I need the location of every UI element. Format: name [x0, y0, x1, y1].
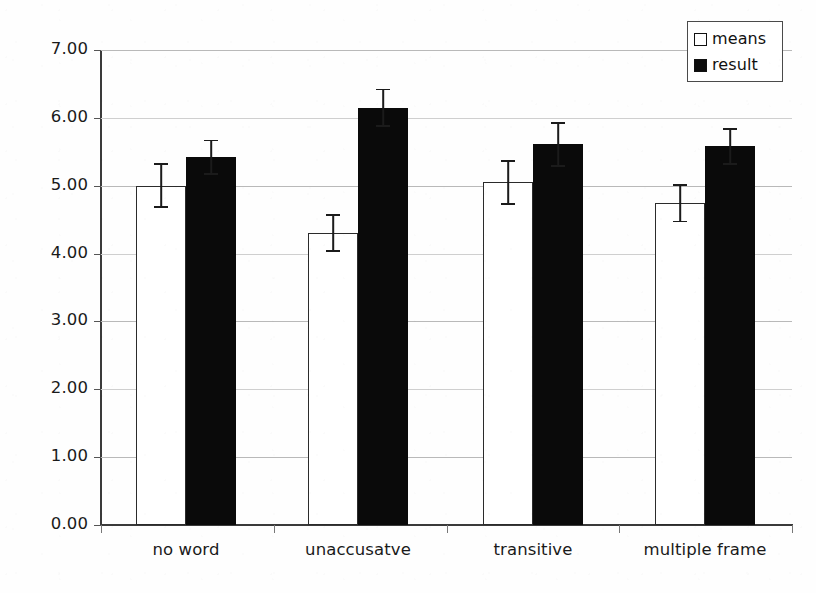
chart-legend: meansresult: [687, 21, 783, 82]
error-bar-cap-bottom: [723, 163, 737, 165]
bar-result: [186, 157, 236, 525]
x-axis-tick: [792, 525, 793, 533]
bar-result: [705, 146, 755, 525]
y-axis-tick: [94, 186, 101, 187]
error-bar-cap-top: [673, 184, 687, 186]
error-bar-cap-top: [154, 163, 168, 165]
error-bar-cap-bottom: [326, 250, 340, 252]
filled-square-swatch: [694, 59, 707, 72]
bar-means: [136, 186, 186, 525]
error-bar-stem: [382, 89, 384, 127]
legend-item: means: [694, 26, 782, 52]
legend-item: result: [694, 52, 782, 78]
error-bar-cap-bottom: [551, 165, 565, 167]
error-bar-cap-top: [376, 89, 390, 91]
error-bar-stem: [729, 128, 731, 165]
error-bar-cap-top: [723, 128, 737, 130]
x-axis-category-label: transitive: [494, 540, 573, 559]
legend-label: means: [712, 31, 766, 47]
x-axis-tick: [447, 525, 448, 533]
error-bar-cap-bottom: [501, 203, 515, 205]
bar-means: [308, 233, 358, 525]
error-bar-stem: [210, 140, 212, 175]
bar-result: [358, 108, 408, 525]
bar-means: [655, 203, 705, 525]
error-bar-cap-top: [551, 122, 565, 124]
y-axis-title-wrapper: Looking time (sec): [36, 50, 62, 525]
error-bar-cap-bottom: [376, 125, 390, 127]
legend-label: result: [712, 57, 758, 73]
error-bar-stem: [507, 160, 509, 205]
error-bar-cap-top: [326, 214, 340, 216]
error-bar-stem: [160, 163, 162, 208]
y-axis-tick: [94, 50, 101, 51]
gridline: [101, 118, 792, 119]
error-bar-cap-bottom: [154, 206, 168, 208]
x-axis-category-label: no word: [152, 540, 219, 559]
error-bar-stem: [557, 122, 559, 167]
error-bar-cap-top: [204, 140, 218, 142]
x-axis-tick: [619, 525, 620, 533]
error-bar-cap-bottom: [673, 221, 687, 223]
x-axis-category-label: multiple frame: [644, 540, 767, 559]
bar-means: [483, 182, 533, 525]
bar-result: [533, 144, 583, 525]
error-bar-cap-bottom: [204, 173, 218, 175]
error-bar-stem: [332, 214, 334, 252]
y-axis-tick: [94, 321, 101, 322]
error-bar-cap-top: [501, 160, 515, 162]
open-square-swatch: [694, 33, 707, 46]
error-bar-stem: [679, 184, 681, 222]
x-axis-tick: [274, 525, 275, 533]
y-axis-tick: [94, 525, 101, 526]
y-axis-tick: [94, 457, 101, 458]
y-axis-line: [100, 50, 102, 525]
x-axis-tick: [101, 525, 102, 533]
plot-area: [101, 50, 792, 525]
x-axis-category-label: unaccusatve: [305, 540, 411, 559]
y-axis-tick: [94, 389, 101, 390]
y-axis-tick: [94, 118, 101, 119]
bar-chart-figure: 0.001.002.003.004.005.006.007.00 Looking…: [0, 0, 816, 593]
x-axis-category-labels: no wordunaccusatvetransitivemultiple fra…: [101, 540, 792, 570]
y-axis-tick: [94, 254, 101, 255]
